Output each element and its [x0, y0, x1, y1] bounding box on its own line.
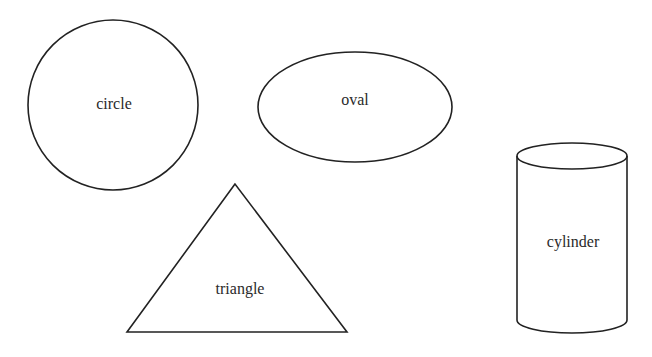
diagram-canvas: circle oval triangle cylinder — [0, 0, 652, 357]
shapes-svg — [0, 0, 652, 357]
triangle-shape — [127, 184, 347, 332]
triangle-label: triangle — [216, 280, 265, 298]
oval-label: oval — [341, 91, 369, 109]
cylinder-label: cylinder — [547, 233, 599, 251]
circle-label: circle — [96, 95, 132, 113]
